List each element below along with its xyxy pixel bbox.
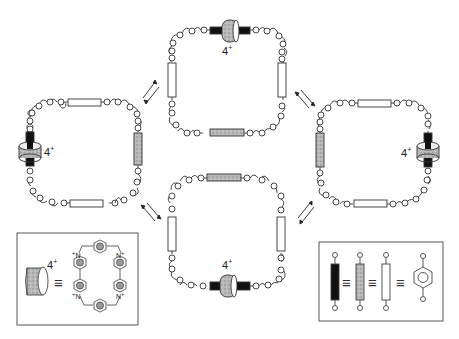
legend-cyclophane-box [17,233,138,325]
ring-right [316,100,439,207]
equilibrium-arrow-top-right [295,90,315,108]
ring-left [19,99,142,207]
equilibrium-arrow-left-bottom [141,203,161,221]
equivalence-symbol: ≡ [342,275,351,290]
nitrogen-label: +N [72,292,80,300]
ring-bottom [168,174,285,297]
diagram-canvas: 4+ 4+ 4+ 4+ 4+ ≡ +N N+ +N N+ ≡ ≡ ≡ [0,0,459,339]
equilibrium-arrow-left-top [143,80,159,104]
legend-charge-label: 4+ [47,258,57,271]
ring-top [168,20,287,136]
charge-label-bottom: 4+ [222,258,232,271]
equilibrium-arrow-bottom-right [298,201,314,224]
charge-label-left: 4+ [44,145,54,158]
legend-station-box [319,242,443,321]
nitrogen-label: N+ [116,251,124,259]
charge-label-right: 4+ [401,146,411,159]
charge-label-top: 4+ [222,44,232,57]
equivalence-symbol: ≡ [396,275,405,290]
equivalence-symbol: ≡ [368,275,377,290]
nitrogen-label: +N [72,251,80,259]
equivalence-symbol: ≡ [54,275,63,290]
nitrogen-label: N+ [116,292,124,300]
